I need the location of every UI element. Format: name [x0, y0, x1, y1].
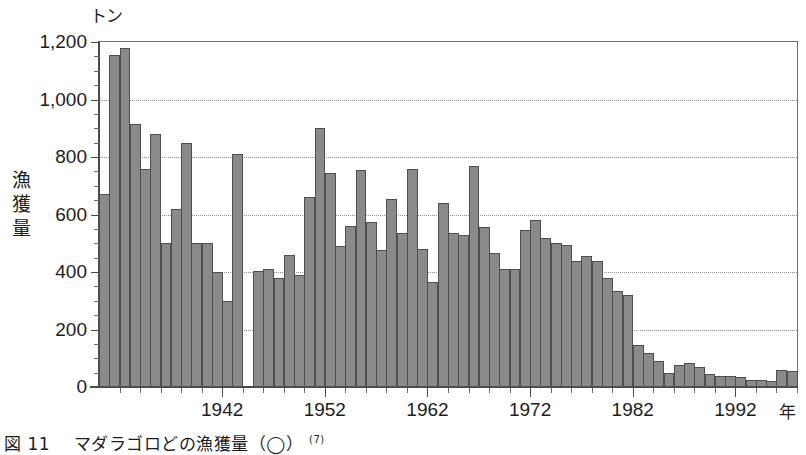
- bar: [427, 282, 438, 387]
- bar: [335, 246, 346, 387]
- bar: [263, 269, 274, 387]
- bar: [530, 220, 541, 387]
- x-tick-minor: [263, 388, 264, 393]
- y-tick-major: [91, 42, 99, 43]
- x-tick-label: 1972: [509, 399, 551, 421]
- y-tick-minor: [94, 186, 99, 187]
- bar: [376, 250, 387, 387]
- bar: [469, 166, 480, 387]
- bar: [561, 245, 572, 387]
- figure-caption: 図 11 マダラゴロどの漁獲量（◯） (7): [4, 430, 325, 455]
- x-tick-minor: [489, 388, 490, 393]
- bar: [325, 173, 336, 387]
- y-tick-label: 1,000: [39, 89, 87, 111]
- bar: [130, 124, 141, 387]
- bar: [674, 365, 685, 387]
- y-tick-minor: [94, 143, 99, 144]
- bar: [171, 209, 182, 387]
- bar: [458, 235, 469, 387]
- bar: [489, 253, 500, 387]
- x-tick-minor: [202, 388, 203, 393]
- y-tick-major: [91, 100, 99, 101]
- bar: [120, 48, 131, 387]
- bar: [612, 291, 623, 387]
- caption-text: マダラゴロどの漁獲量（◯）: [74, 434, 304, 454]
- x-tick-minor: [674, 388, 675, 393]
- bar: [232, 154, 243, 387]
- y-tick-label: 600: [55, 204, 87, 226]
- bar: [407, 169, 418, 388]
- bar: [581, 256, 592, 387]
- bar: [191, 243, 202, 387]
- bar: [181, 143, 192, 387]
- bar: [776, 370, 787, 387]
- plot-inner: 02004006008001,0001,200 1942195219621972…: [99, 42, 797, 387]
- bar: [746, 380, 757, 387]
- x-tick-label: 1942: [201, 399, 243, 421]
- y-axis-title-char: 漁: [8, 168, 34, 192]
- x-tick-minor: [407, 388, 408, 393]
- bar: [499, 269, 510, 387]
- bar: [551, 243, 562, 387]
- bar: [99, 194, 110, 387]
- y-tick-minor: [94, 56, 99, 57]
- x-tick-minor: [469, 388, 470, 393]
- y-axis-title: 漁獲量: [8, 168, 34, 240]
- x-tick-minor: [510, 388, 511, 393]
- x-tick-label: 1982: [612, 399, 654, 421]
- x-tick-minor: [386, 388, 387, 393]
- bar: [735, 377, 746, 387]
- bar: [294, 275, 305, 387]
- bar: [274, 278, 285, 387]
- y-tick-minor: [94, 85, 99, 86]
- x-tick-minor: [797, 388, 798, 393]
- y-axis-title-char: 獲: [8, 192, 34, 216]
- bar: [725, 376, 736, 388]
- bar: [284, 255, 295, 387]
- x-tick-minor: [345, 388, 346, 393]
- bar: [643, 353, 654, 388]
- bar: [356, 170, 367, 387]
- plot-area: 02004006008001,0001,200 1942195219621972…: [99, 41, 798, 387]
- x-tick-minor: [776, 388, 777, 393]
- bar: [715, 376, 726, 388]
- y-tick-label: 1,200: [39, 31, 87, 53]
- y-tick-minor: [94, 71, 99, 72]
- x-tick-minor: [756, 388, 757, 393]
- bar: [140, 169, 151, 388]
- y-tick-minor: [94, 128, 99, 129]
- y-tick-label: 800: [55, 146, 87, 168]
- bar: [694, 367, 705, 387]
- bar: [540, 238, 551, 388]
- bar: [520, 230, 531, 387]
- y-tick-minor: [94, 171, 99, 172]
- x-tick-minor: [120, 388, 121, 393]
- x-tick-label: 1952: [304, 399, 346, 421]
- bar: [222, 301, 233, 387]
- x-axis-unit-label: 年: [779, 398, 796, 423]
- bar: [202, 243, 213, 387]
- bar: [315, 128, 326, 387]
- y-tick-major: [91, 215, 99, 216]
- x-tick-minor: [181, 388, 182, 393]
- x-tick-minor: [694, 388, 695, 393]
- x-tick-major: [325, 388, 326, 397]
- bar: [109, 55, 120, 387]
- y-tick-label: 200: [55, 319, 87, 341]
- y-tick-label: 0: [76, 376, 87, 398]
- bar: [150, 134, 161, 387]
- bar: [253, 271, 264, 387]
- x-tick-minor: [653, 388, 654, 393]
- bar: [664, 373, 675, 387]
- bar: [448, 233, 459, 387]
- bar: [212, 272, 223, 387]
- x-tick-minor: [551, 388, 552, 393]
- y-axis-unit-label: トン: [90, 2, 122, 27]
- x-tick-minor: [571, 388, 572, 393]
- y-axis-title-char: 量: [8, 216, 34, 240]
- caption-number: 図 11: [4, 434, 50, 454]
- x-tick-minor: [161, 388, 162, 393]
- x-tick-minor: [715, 388, 716, 393]
- y-tick-major: [91, 157, 99, 158]
